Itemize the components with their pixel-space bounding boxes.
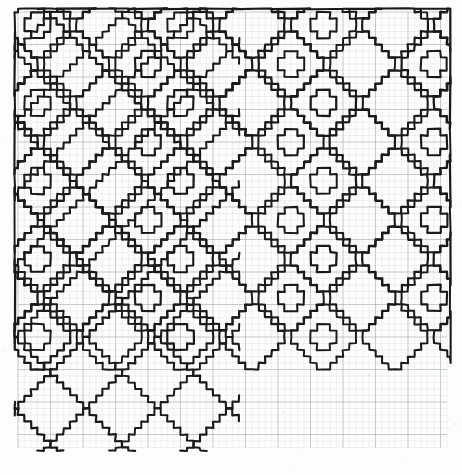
artwork-page: Hand-drawn geometric lattice on graph pa… xyxy=(0,0,462,475)
speckle-dots xyxy=(4,5,457,466)
paper-speckle xyxy=(0,0,462,475)
